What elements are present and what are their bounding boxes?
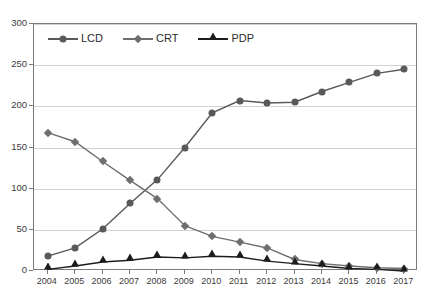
y-tick-label: 50: [1, 224, 27, 234]
data-point-lcd: [346, 79, 353, 86]
legend-label: CRT: [156, 33, 178, 44]
data-point-pdp: [153, 251, 161, 258]
y-tick-label: 250: [1, 59, 27, 69]
data-point-lcd: [44, 253, 51, 260]
data-point-pdp: [318, 260, 326, 267]
data-point-lcd: [209, 109, 216, 116]
legend-item-lcd[interactable]: LCD: [48, 33, 103, 44]
data-point-lcd: [181, 144, 188, 151]
data-point-lcd: [236, 97, 243, 104]
data-point-pdp: [236, 251, 244, 258]
circle-marker: [48, 33, 78, 44]
y-tick-label: 200: [1, 100, 27, 110]
data-point-lcd: [264, 100, 271, 107]
y-tick-label: 100: [1, 183, 27, 193]
data-point-pdp: [99, 255, 107, 262]
triangle-marker: [198, 33, 228, 44]
legend-item-crt[interactable]: CRT: [123, 33, 178, 44]
data-point-lcd: [291, 99, 298, 106]
data-point-lcd: [401, 66, 408, 73]
data-point-lcd: [99, 226, 106, 233]
x-tick-label: 2012: [252, 277, 280, 286]
x-tick-label: 2014: [307, 277, 335, 286]
data-point-pdp: [126, 254, 134, 261]
x-tick-label: 2010: [197, 277, 225, 286]
data-point-pdp: [44, 263, 52, 270]
x-tick-label: 2006: [88, 277, 116, 286]
data-point-pdp: [181, 251, 189, 258]
data-point-pdp: [345, 262, 353, 269]
x-tick-label: 2011: [225, 277, 253, 286]
y-tick-label: 0: [1, 265, 27, 275]
data-point-pdp: [263, 255, 271, 262]
x-tick-label: 2007: [115, 277, 143, 286]
x-tick-label: 2009: [170, 277, 198, 286]
x-tick-label: 2016: [362, 277, 390, 286]
data-point-pdp: [291, 257, 299, 264]
y-tick-label: 150: [1, 142, 27, 152]
x-tick-label: 2004: [33, 277, 61, 286]
x-tick-label: 2005: [60, 277, 88, 286]
data-point-pdp: [208, 250, 216, 257]
diamond-marker: [123, 33, 153, 44]
data-point-lcd: [127, 200, 134, 207]
series-lines: [34, 24, 418, 271]
x-tick-label: 2017: [389, 277, 417, 286]
chart-legend: LCDCRTPDP: [48, 33, 254, 44]
data-point-lcd: [319, 88, 326, 95]
data-point-pdp: [71, 260, 79, 267]
legend-label: PDP: [231, 33, 254, 44]
data-point-lcd: [154, 176, 161, 183]
data-point-lcd: [72, 244, 79, 251]
data-point-lcd: [373, 70, 380, 77]
x-tick-label: 2013: [280, 277, 308, 286]
legend-item-pdp[interactable]: PDP: [198, 33, 254, 44]
y-tick-mark: [29, 270, 33, 271]
line-chart: 050100150200250300 200420052006200720082…: [0, 0, 434, 297]
legend-label: LCD: [81, 33, 103, 44]
data-point-pdp: [400, 265, 408, 272]
series-line-crt: [48, 133, 405, 269]
y-tick-label: 300: [1, 18, 27, 28]
x-tick-label: 2008: [142, 277, 170, 286]
plot-area: [33, 23, 417, 270]
x-tick-label: 2015: [334, 277, 362, 286]
data-point-pdp: [373, 263, 381, 270]
